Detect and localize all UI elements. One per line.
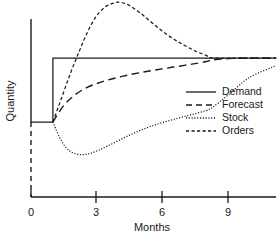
x-tick-label-3: 3 [93, 206, 99, 218]
x-axis-title: Months [134, 221, 171, 233]
legend-label-stock: Stock [222, 111, 249, 123]
line-chart: 0 3 6 9 Months Quantity Demand Forecast … [0, 0, 280, 234]
legend-label-forecast: Forecast [222, 98, 263, 110]
chart-legend: Demand Forecast Stock Orders [186, 85, 263, 136]
legend-label-orders: Orders [222, 124, 254, 136]
x-tick-label-0: 0 [28, 206, 34, 218]
legend-item-demand: Demand [186, 85, 262, 97]
legend-label-demand: Demand [222, 85, 262, 97]
x-tick-label-9: 9 [225, 206, 231, 218]
legend-item-forecast: Forecast [186, 98, 263, 110]
legend-item-orders: Orders [186, 124, 254, 136]
y-axis-title: Quantity [4, 80, 16, 121]
chart-container: 0 3 6 9 Months Quantity Demand Forecast … [0, 0, 280, 234]
x-tick-label-6: 6 [159, 206, 165, 218]
